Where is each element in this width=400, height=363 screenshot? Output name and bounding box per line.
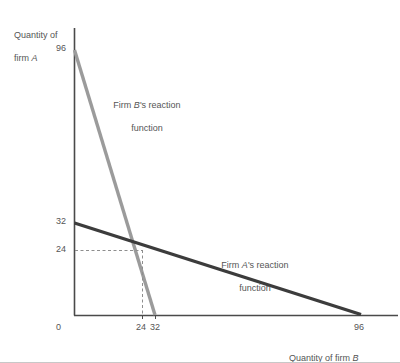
y-axis-title-line2-prefix: firm: [14, 53, 32, 63]
firm-b-label-suffix: 's reaction: [140, 100, 181, 110]
y-tick-label-24: 24: [56, 244, 66, 254]
cournot-reaction-functions-figure: Quantity of firm A Quantity of firm B 96…: [0, 0, 400, 363]
x-axis-title-firm-letter: B: [353, 353, 359, 363]
firm-b-reaction-function-label: Firm B's reaction function: [91, 88, 203, 134]
x-axis-title: Quantity of firm B: [289, 341, 359, 363]
firm-a-reaction-function-label: Firm A's reaction function: [199, 248, 311, 294]
firm-b-label-line2: function: [131, 123, 163, 133]
y-axis-title: Quantity of firm A: [14, 18, 58, 64]
x-tick-label-96: 96: [354, 322, 364, 332]
x-tick-label-32: 32: [150, 322, 160, 332]
x-tick-label-0: 0: [56, 322, 61, 332]
x-axis-title-prefix: Quantity of firm: [289, 353, 353, 363]
chart-canvas: [0, 0, 400, 363]
y-axis-title-firm-letter: A: [32, 53, 38, 63]
y-axis-title-line1: Quantity of: [14, 30, 58, 40]
firm-a-label-suffix: 's reaction: [248, 260, 289, 270]
firm-a-label-prefix: Firm: [221, 260, 242, 270]
y-tick-label-32: 32: [56, 216, 66, 226]
x-tick-label-24: 24: [136, 322, 146, 332]
y-tick-label-96: 96: [56, 43, 66, 53]
firm-a-label-line2: function: [239, 283, 271, 293]
firm-b-label-prefix: Firm: [113, 100, 134, 110]
